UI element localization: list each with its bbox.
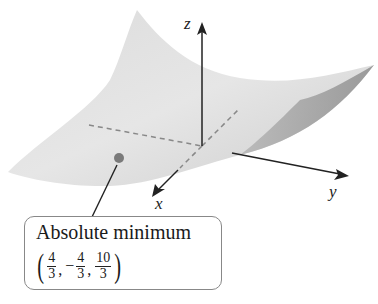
coord-z-denominator: 3 — [100, 267, 107, 282]
absolute-minimum-point — [114, 153, 124, 163]
y-axis-label: y — [329, 182, 337, 202]
comma: , — [58, 261, 62, 283]
coord-z-numerator: 10 — [95, 251, 111, 267]
close-paren: ) — [115, 249, 122, 283]
comma: , — [87, 261, 91, 283]
z-axis-label: z — [184, 14, 191, 34]
y-axis — [232, 153, 340, 174]
coord-y-denominator: 3 — [77, 267, 84, 282]
coord-x-denominator: 3 — [48, 267, 55, 282]
surface-figure: z y x Absolute minimum ( 4 3 , − 4 3 , 1… — [0, 0, 378, 304]
x-axis-label: x — [155, 194, 163, 214]
callout-coordinates: ( 4 3 , − 4 3 , 10 3 ) — [35, 249, 124, 283]
coord-y-fraction: 4 3 — [76, 251, 85, 281]
coord-x-fraction: 4 3 — [47, 251, 56, 281]
coord-z-fraction: 10 3 — [95, 251, 111, 281]
callout-title: Absolute minimum — [36, 221, 191, 244]
coord-y-numerator: 4 — [76, 251, 85, 267]
minimum-callout-box: Absolute minimum ( 4 3 , − 4 3 , 10 3 ) — [24, 216, 222, 290]
y-axis-arrow — [334, 169, 349, 180]
coord-x-numerator: 4 — [47, 251, 56, 267]
open-paren: ( — [37, 249, 44, 283]
coord-y-sign: − — [65, 257, 74, 275]
